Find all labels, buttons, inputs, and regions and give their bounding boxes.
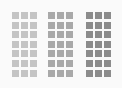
square-tile: [30, 31, 37, 38]
square-tile: [57, 70, 64, 77]
square-tile: [30, 41, 37, 48]
square-tile: [86, 70, 93, 77]
square-tile: [95, 12, 102, 19]
square-tile: [30, 50, 37, 57]
square-tile: [21, 31, 28, 38]
square-tile: [66, 12, 73, 19]
square-tile: [12, 50, 19, 57]
square-tile: [57, 41, 64, 48]
square-group-dark: [86, 12, 111, 77]
square-tile: [48, 70, 55, 77]
square-tile: [95, 60, 102, 67]
square-tile: [104, 12, 111, 19]
square-tile: [66, 70, 73, 77]
square-tile: [12, 12, 19, 19]
square-tile: [104, 31, 111, 38]
square-tile: [21, 22, 28, 29]
square-tile: [57, 50, 64, 57]
square-tile: [30, 60, 37, 67]
square-tile: [104, 41, 111, 48]
square-tile: [95, 22, 102, 29]
square-tile: [66, 60, 73, 67]
square-tile: [104, 50, 111, 57]
square-tile: [104, 60, 111, 67]
square-tile: [95, 41, 102, 48]
square-tile: [48, 60, 55, 67]
square-tile: [86, 50, 93, 57]
square-tile: [21, 12, 28, 19]
square-tile: [30, 22, 37, 29]
square-group-medium: [48, 12, 73, 77]
square-tile: [12, 22, 19, 29]
square-tile: [48, 22, 55, 29]
square-tile: [57, 22, 64, 29]
square-tile: [95, 31, 102, 38]
square-tile: [104, 22, 111, 29]
square-tile: [57, 12, 64, 19]
square-tile: [30, 70, 37, 77]
square-tile: [21, 70, 28, 77]
square-tile: [86, 60, 93, 67]
square-tile: [57, 31, 64, 38]
square-tile: [30, 12, 37, 19]
square-tile: [86, 41, 93, 48]
square-tile: [12, 31, 19, 38]
square-tile: [12, 41, 19, 48]
square-tile: [86, 12, 93, 19]
square-tile: [104, 70, 111, 77]
square-tile: [48, 31, 55, 38]
square-tile: [12, 60, 19, 67]
square-tile: [86, 22, 93, 29]
square-tile: [48, 12, 55, 19]
square-tile: [21, 60, 28, 67]
square-tile: [66, 31, 73, 38]
square-tile: [48, 50, 55, 57]
square-tile: [21, 50, 28, 57]
square-tile: [21, 41, 28, 48]
square-tile: [95, 50, 102, 57]
square-tile: [66, 50, 73, 57]
square-tile: [95, 70, 102, 77]
square-group-light: [12, 12, 37, 77]
square-tile: [57, 60, 64, 67]
square-tile: [66, 41, 73, 48]
square-tile: [66, 22, 73, 29]
square-tile: [48, 41, 55, 48]
square-tile: [86, 31, 93, 38]
square-tile: [12, 70, 19, 77]
